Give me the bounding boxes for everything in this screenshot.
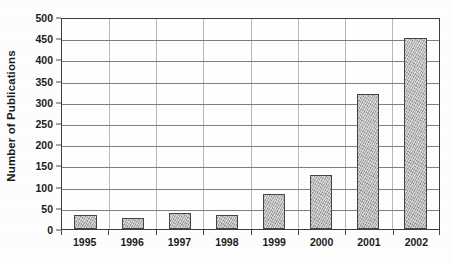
y-axis-tick-label-group: 050100150200250300350400450500 (22, 18, 56, 230)
x-axis-tick-label-1998: 1998 (203, 236, 250, 254)
x-axis-tick-label-2001: 2001 (345, 236, 392, 254)
y-axis-tick-mark (56, 81, 61, 82)
bar-cell (156, 19, 203, 229)
bar-1996 (122, 218, 144, 229)
bar-1997 (169, 213, 191, 229)
bars-layer (62, 19, 439, 229)
y-axis-tick-mark (56, 230, 61, 231)
y-axis-tick-mark (56, 166, 61, 167)
y-axis-tick-label: 350 (35, 76, 53, 88)
y-axis-tick-label: 150 (35, 160, 53, 172)
y-axis-tick-label: 500 (35, 12, 53, 24)
y-axis-tick-label: 450 (35, 33, 53, 45)
bar-cell (345, 19, 392, 229)
x-axis-tick-label-1996: 1996 (108, 236, 155, 254)
bar-chart-figure: Number of Publications 05010015020025030… (0, 0, 451, 263)
x-axis-tick-mark (345, 230, 346, 235)
bar-2002 (404, 38, 426, 229)
bar-cell (62, 19, 109, 229)
y-axis-tick-label: 250 (35, 118, 53, 130)
y-axis-tick-mark (56, 187, 61, 188)
y-axis-tick-mark (56, 18, 61, 19)
x-axis-tick-mark (393, 230, 394, 235)
y-axis-title-label: Number of Publications (5, 50, 17, 181)
y-axis-tick-label: 100 (35, 182, 53, 194)
x-axis-tick-mark (61, 230, 62, 235)
x-axis-tick-mark (251, 230, 252, 235)
x-axis-tick-label-1995: 1995 (61, 236, 108, 254)
y-axis-tick-label: 400 (35, 54, 53, 66)
bar-cell (298, 19, 345, 229)
y-axis-tick-mark (56, 124, 61, 125)
y-axis-tick-label: 200 (35, 139, 53, 151)
bar-cell (392, 19, 439, 229)
x-axis-tick-label-1999: 1999 (251, 236, 298, 254)
y-axis-tick-label: 0 (47, 224, 53, 236)
y-axis-tick-label: 300 (35, 97, 53, 109)
x-axis-tick-label-group: 19951996199719981999200020012002 (61, 236, 440, 254)
bar-1998 (216, 215, 238, 229)
y-axis-tick-mark (56, 145, 61, 146)
bar-2000 (310, 175, 332, 229)
x-axis-tick-mark (203, 230, 204, 235)
y-axis-tick-mark (56, 60, 61, 61)
x-axis-tick-mark-group (61, 230, 440, 235)
x-axis-tick-mark (156, 230, 157, 235)
bar-cell (109, 19, 156, 229)
y-axis-tick-mark (56, 39, 61, 40)
bar-cell (203, 19, 250, 229)
y-axis-tick-mark (56, 208, 61, 209)
x-axis-tick-label-2002: 2002 (393, 236, 440, 254)
y-axis-title: Number of Publications (0, 0, 22, 232)
bar-cell (251, 19, 298, 229)
x-axis-tick-mark (298, 230, 299, 235)
x-axis-tick-mark (439, 230, 440, 235)
x-axis-tick-mark (108, 230, 109, 235)
plot-area (61, 18, 440, 230)
x-axis-tick-label-1997: 1997 (156, 236, 203, 254)
bar-1999 (263, 194, 285, 229)
y-axis-tick-label: 50 (41, 203, 53, 215)
bar-1995 (74, 215, 96, 229)
x-axis-tick-label-2000: 2000 (298, 236, 345, 254)
bar-2001 (357, 94, 379, 229)
y-axis-tick-mark (56, 102, 61, 103)
